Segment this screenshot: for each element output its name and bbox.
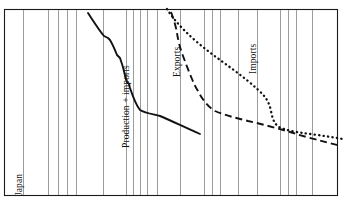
plot-area (0, 0, 346, 216)
panel-label-japan: Japan (14, 174, 24, 196)
series-label-imports: Imports (248, 44, 258, 74)
plot-frame (5, 10, 338, 196)
series-label-production-imports: Production + imports (121, 65, 131, 148)
chart-figure: Japan Production + imports Exports Impor… (0, 0, 346, 216)
series-label-exports: Exports (172, 47, 182, 77)
